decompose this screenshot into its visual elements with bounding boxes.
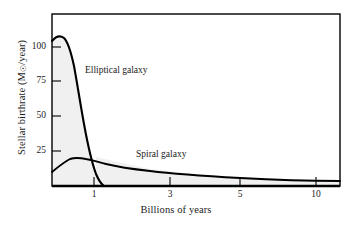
x-tick-label-10: 10 bbox=[304, 190, 328, 200]
y-tick-label-25: 25 bbox=[18, 146, 46, 156]
x-tick-label-3: 3 bbox=[158, 190, 182, 200]
spiral-galaxy-label: Spiral galaxy bbox=[136, 150, 186, 160]
elliptical-galaxy-label: Elliptical galaxy bbox=[85, 66, 148, 76]
y-tick-label-75: 75 bbox=[18, 76, 46, 86]
x-tick-label-1: 1 bbox=[82, 190, 106, 200]
y-axis-label: Stellar birthrate (M☉/year) bbox=[17, 12, 28, 182]
x-axis-label: Billions of years bbox=[0, 204, 352, 215]
y-tick-label-50: 50 bbox=[18, 111, 46, 121]
solar-mass-symbol: ☉ bbox=[19, 65, 28, 72]
x-tick-label-5: 5 bbox=[228, 190, 252, 200]
y-tick-label-100: 100 bbox=[18, 42, 46, 52]
chart-figure: Stellar birthrate (M☉/year) Billions of … bbox=[0, 0, 352, 226]
